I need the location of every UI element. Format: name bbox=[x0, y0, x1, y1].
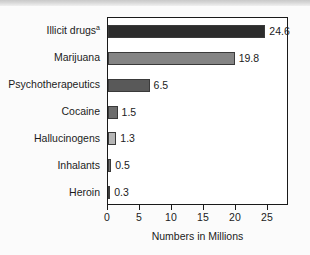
category-label-inhalants: Inhalants bbox=[0, 159, 100, 171]
plot-area: 24.619.86.51.51.30.50.3 bbox=[108, 18, 287, 204]
x-tick-label: 15 bbox=[197, 211, 209, 223]
category-label-psychotherapeutics: Psychotherapeutics bbox=[0, 78, 100, 90]
bar-value-label: 24.6 bbox=[269, 25, 289, 38]
bar-value-label: 19.8 bbox=[239, 52, 259, 65]
category-label-text: Inhalants bbox=[57, 159, 100, 171]
bar-psychotherapeutics bbox=[108, 79, 150, 92]
category-label-hallucinogens: Hallucinogens bbox=[0, 132, 100, 144]
bar-value-label: 0.3 bbox=[114, 186, 129, 199]
x-tick-mark bbox=[107, 205, 108, 210]
bar-heroin bbox=[108, 186, 110, 199]
category-label-text: Marijuana bbox=[54, 51, 100, 63]
x-tick-label: 5 bbox=[136, 211, 142, 223]
bar-hallucinogens bbox=[108, 132, 116, 145]
category-label-text: Illicit drugs bbox=[46, 24, 96, 36]
bar-chart-figure: Illicit drugsaMarijuanaPsychotherapeutic… bbox=[0, 0, 310, 255]
bar-cocaine bbox=[108, 106, 118, 119]
x-tick-label: 10 bbox=[165, 211, 177, 223]
category-label-text: Hallucinogens bbox=[34, 132, 100, 144]
x-tick-mark bbox=[267, 205, 268, 210]
bar-value-label: 1.5 bbox=[122, 106, 137, 119]
category-label-illicit-drugs: Illicit drugsa bbox=[0, 24, 100, 36]
bar-value-label: 6.5 bbox=[154, 79, 169, 92]
bar-marijuana bbox=[108, 52, 235, 65]
x-tick-mark bbox=[203, 205, 204, 210]
category-label-heroin: Heroin bbox=[0, 186, 100, 198]
category-axis-labels: Illicit drugsaMarijuanaPsychotherapeutic… bbox=[0, 17, 104, 205]
x-tick-label: 0 bbox=[104, 211, 110, 223]
x-tick-mark bbox=[139, 205, 140, 210]
x-tick-label: 25 bbox=[261, 211, 273, 223]
plot-frame: 24.619.86.51.51.30.50.3 bbox=[107, 17, 288, 205]
bar-value-label: 1.3 bbox=[120, 132, 135, 145]
bar-illicit-drugs bbox=[108, 25, 265, 38]
bar-inhalants bbox=[108, 159, 111, 172]
x-tick-label: 20 bbox=[229, 211, 241, 223]
x-tick-mark bbox=[171, 205, 172, 210]
category-label-text: Heroin bbox=[69, 186, 100, 198]
bar-value-label: 0.5 bbox=[115, 159, 130, 172]
category-label-text: Cocaine bbox=[61, 105, 100, 117]
x-tick-mark bbox=[235, 205, 236, 210]
category-label-cocaine: Cocaine bbox=[0, 105, 100, 117]
x-axis-title: Numbers in Millions bbox=[107, 230, 288, 242]
category-footnote-marker: a bbox=[96, 24, 100, 31]
category-label-marijuana: Marijuana bbox=[0, 51, 100, 63]
scan-edge-artifact bbox=[0, 0, 310, 6]
category-label-text: Psychotherapeutics bbox=[8, 78, 100, 90]
